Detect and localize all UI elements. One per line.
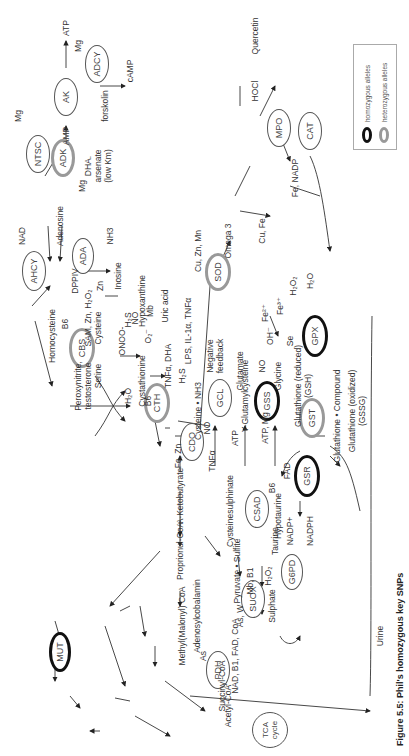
label-lowkm: (low Km) xyxy=(104,149,113,183)
label-uric-acid: Uric acid xyxy=(161,289,170,322)
label-atpmg: ATP, Mg xyxy=(261,412,270,443)
label-no-b: NO xyxy=(203,422,212,435)
label-peroxynitrite: Peroxynitrite, xyxy=(74,361,83,411)
label-h2s-b: H₂S xyxy=(178,368,187,383)
enzyme-mut: MUT xyxy=(49,632,71,672)
label-no-c: NO xyxy=(258,360,267,373)
label-lps: LPS, IL-1α, TNFα xyxy=(184,298,193,365)
label-fad: FAD xyxy=(283,463,292,480)
label-cysteine: Cysteine xyxy=(94,311,103,344)
legend-heterozygous: heterozygous alleles xyxy=(379,63,389,143)
label-forskolin: forskolin xyxy=(101,90,110,122)
label-dppiv: DPPIV xyxy=(71,268,80,294)
label-fe3: Fe³⁺ xyxy=(276,297,285,315)
label-cysteinesulphinate: Cysteinesulphinate xyxy=(226,475,235,547)
label-glycine: Glycine xyxy=(274,362,283,390)
label-nh3: NH3 xyxy=(106,227,115,244)
label-cufe: Cu, Fe xyxy=(258,218,267,244)
label-feedback: feedback xyxy=(216,339,225,374)
label-fezn: Fe, Zn xyxy=(174,444,183,469)
label-arsenate: arsenate xyxy=(94,149,103,182)
enzyme-cat: CAT xyxy=(298,112,322,150)
legend-heterozygous-label: heterozygous alleles xyxy=(381,63,388,122)
label-oh: OH⁻ xyxy=(266,327,275,345)
label-dha: DHA. xyxy=(84,156,93,176)
label-propionyl: Proprionul-CoA xyxy=(176,522,185,580)
label-methylmalonyl: Methyl(Malonyl) CoA xyxy=(178,587,187,666)
homozygous-swatch-icon xyxy=(362,127,372,143)
label-mg2: Mg xyxy=(14,110,23,122)
enzyme-sod: SOD xyxy=(205,253,231,291)
label-omega3: Omega 3 xyxy=(224,224,233,259)
enzyme-g6pd: G6PD xyxy=(281,554,303,590)
label-gssg-abbr: (GSSG) xyxy=(358,396,367,426)
label-fe2: Fe²⁺ xyxy=(261,304,270,322)
label-negative: Negative xyxy=(206,339,215,373)
enzyme-gcl: GCL xyxy=(208,379,232,417)
legend-homozygous-label: homozygous alleles xyxy=(364,65,371,122)
label-h2o2: H₂O₂ xyxy=(289,276,298,295)
label-nad-b1: NAD, B1, FAD, CoA xyxy=(231,618,240,694)
label-mg: Mg xyxy=(74,40,83,52)
label-b6-c: B6 xyxy=(268,483,277,493)
label-gglutamylcysteine: Y-Glutamylcysteine xyxy=(241,360,250,432)
label-b6: B6 xyxy=(61,319,70,329)
label-inosine: Inosine xyxy=(114,262,123,289)
enzyme-ntsc: NTSC xyxy=(26,135,50,173)
label-adenosylcobalamin: Adenosylcobalamin xyxy=(193,579,202,653)
label-h2s: H₂S xyxy=(124,312,133,327)
label-fenadp: Fe, NADP xyxy=(291,159,300,197)
label-camp: cAMP xyxy=(126,60,135,83)
label-gsh-abbr: (GSH) xyxy=(304,374,313,398)
label-amp: AMP xyxy=(62,127,71,145)
label-mbb1: Mb, B1 xyxy=(246,568,255,595)
label-superoxide: O₂⁻ xyxy=(144,329,153,344)
enzyme-adcy: ADCY xyxy=(85,45,109,83)
legend: homozygous alleles heterozygous alleles xyxy=(353,44,397,150)
label-atp: ATP xyxy=(62,20,71,36)
label-cuznmn: Cu, Zn, Mn xyxy=(194,230,203,272)
enzyme-ahcy: AHCY xyxy=(22,251,46,291)
enzyme-gst: GST xyxy=(299,398,325,438)
label-tnfa-dha: TNFα, DHA xyxy=(164,344,173,388)
label-zn: Zn xyxy=(96,281,105,291)
legend-homozygous: homozygous alleles xyxy=(362,65,372,143)
label-mg3: Mg xyxy=(78,180,87,192)
heterozygous-swatch-icon xyxy=(379,127,389,143)
label-glutathione-compound: Glutathione • Compound xyxy=(333,370,342,463)
label-h2o2-b: H₂O₂ xyxy=(264,566,273,585)
label-onoo: ONOO- xyxy=(118,327,127,356)
label-tnfa-b: TNFα xyxy=(208,450,217,471)
label-nadph: NADPH xyxy=(306,516,315,546)
label-taurine: Taurine xyxy=(271,527,280,555)
label-hocl: HOCl xyxy=(251,81,260,102)
enzyme-mpo: MPO xyxy=(267,109,291,147)
enzyme-ak: AK xyxy=(54,78,78,116)
label-urine: Urine xyxy=(376,626,385,646)
figure-caption: Figure 5.5: Phil's homozygous key SNPs xyxy=(395,573,405,746)
label-pyruvate-sulfite: Pyruvate • Sulfite xyxy=(233,539,242,604)
label-sam: SAM, Zn, H₂O₂ xyxy=(84,289,93,346)
label-acetyl: Acetyl-CoA xyxy=(224,685,233,728)
enzyme-gsr: GSR xyxy=(294,455,320,497)
label-serine: Serine xyxy=(94,364,103,389)
pathway-diagram: ADCY AK NTSC ADK ADA AHCY MPO CAT SOD GP… xyxy=(0,0,409,756)
label-quercetin: Quercetin xyxy=(251,18,260,55)
label-mb: Mb xyxy=(146,305,155,317)
label-h2o-b: H₂O xyxy=(124,388,133,404)
enzyme-gpx: GPX xyxy=(302,315,328,357)
label-sulphate: Sulphate xyxy=(268,589,277,623)
label-atp-b: ATP xyxy=(231,430,240,446)
label-ketobutyrate: A-Ketobutyrate xyxy=(176,468,185,525)
label-as: As xyxy=(199,651,208,661)
enzyme-csad: CSAD xyxy=(245,490,269,528)
label-h2o: H₂O xyxy=(306,273,315,289)
label-adenosine: Adenosine xyxy=(56,206,65,246)
label-nad: NAD xyxy=(18,227,27,245)
tca-cycle: TCA cycle xyxy=(252,712,288,748)
label-b6-b: B6 xyxy=(144,396,153,406)
label-gssg: Glutathione (oxidized) xyxy=(348,370,357,453)
label-testosterone: testosterone xyxy=(84,363,93,410)
label-homocysteine: Homocysteine xyxy=(48,309,57,363)
label-nadp: NADP+ xyxy=(286,517,295,546)
